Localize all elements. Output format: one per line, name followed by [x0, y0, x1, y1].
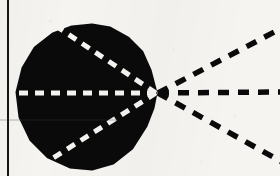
- scanned-figure-container: [0, 0, 280, 176]
- figure-canvas: [0, 0, 280, 176]
